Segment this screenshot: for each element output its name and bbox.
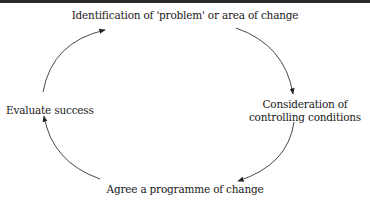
arrow-left-to-top xyxy=(43,30,105,92)
arrow-bottom-to-left xyxy=(44,116,100,179)
arrow-right-to-bottom xyxy=(238,122,294,181)
arrow-top-to-right xyxy=(236,28,293,94)
cycle-arrows xyxy=(0,0,370,208)
